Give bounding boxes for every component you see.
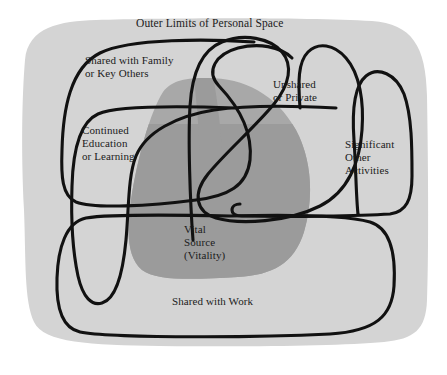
label-significant-other-activities: Significant Other Activities bbox=[345, 138, 394, 178]
diagram-canvas: Outer Limits of Personal Space Shared wi… bbox=[0, 0, 447, 375]
label-continued-education-or-learning: Continued Education or Learning bbox=[82, 124, 135, 164]
label-outer-limits-of-personal-space: Outer Limits of Personal Space bbox=[136, 17, 283, 30]
label-shared-with-family: Shared with Family or Key Others bbox=[85, 54, 174, 80]
diagram-illustration bbox=[0, 0, 447, 375]
label-vital-source-vitality: Vital Source (Vitality) bbox=[184, 223, 225, 263]
label-shared-with-work: Shared with Work bbox=[172, 295, 253, 308]
label-unshared-or-private: Unshared or Private bbox=[273, 78, 317, 104]
